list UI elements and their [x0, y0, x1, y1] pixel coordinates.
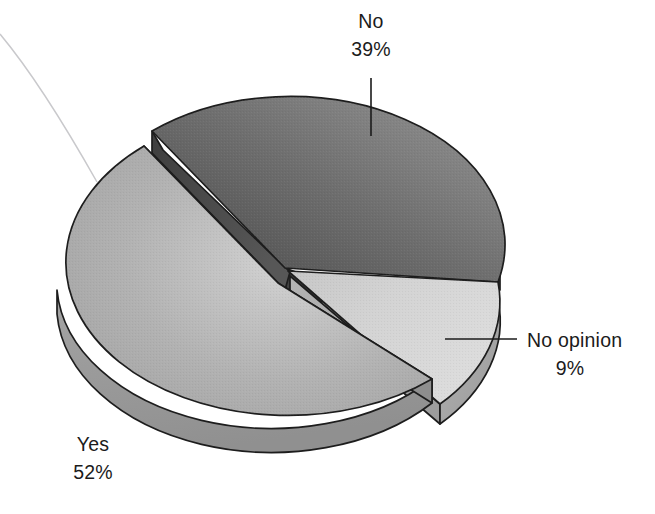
- pie-chart-figure: No 39% No opinion 9% Yes 52%: [0, 0, 655, 514]
- label-no-percent: 39%: [351, 38, 391, 60]
- label-no-name: No: [358, 10, 383, 32]
- label-no-opinion-percent: 9%: [556, 357, 585, 379]
- label-yes-percent: 52%: [73, 461, 113, 483]
- pie-chart-canvas: No 39% No opinion 9% Yes 52%: [0, 0, 655, 514]
- label-yes-name: Yes: [77, 433, 109, 455]
- label-no-opinion-name: No opinion: [527, 329, 622, 351]
